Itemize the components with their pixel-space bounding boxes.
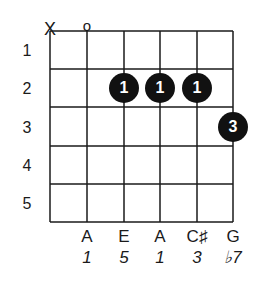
note-name: C♯ (182, 228, 212, 246)
finger-number: 1 (150, 80, 170, 96)
scale-degree: 1 (145, 249, 175, 267)
fret-lines (50, 31, 233, 222)
fret-label: 3 (17, 119, 37, 137)
note-name: A (72, 228, 102, 246)
fret-label: 1 (17, 42, 37, 60)
scale-degree: ♭7 (218, 249, 248, 267)
scale-degree: 3 (182, 249, 212, 267)
string-lines (50, 31, 233, 222)
note-name: G (218, 228, 248, 246)
scale-degree: 5 (109, 249, 139, 267)
chord-diagram: 1 1 1 3 X o 1 2 3 4 5 A E A C♯ G 1 5 1 3… (0, 0, 265, 288)
finger-number: 3 (223, 119, 243, 135)
fret-label: 5 (17, 195, 37, 213)
muted-string-marker: X (40, 21, 60, 37)
scale-degree: 1 (72, 249, 102, 267)
fret-label: 2 (17, 80, 37, 98)
note-name: E (109, 228, 139, 246)
note-name: A (145, 228, 175, 246)
open-string-marker: o (77, 18, 97, 34)
fret-label: 4 (17, 157, 37, 175)
finger-number: 1 (187, 80, 207, 96)
finger-number: 1 (114, 80, 134, 96)
